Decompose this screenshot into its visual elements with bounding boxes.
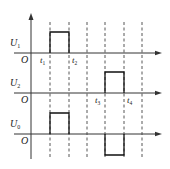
- pulse-u0: [50, 113, 69, 134]
- origin-label: O: [21, 54, 28, 65]
- pulse-u1: [50, 32, 69, 53]
- time-guides: [50, 22, 142, 157]
- pulse-u2: [105, 72, 124, 93]
- y-axis-arrow-icon: [29, 13, 34, 20]
- origin-label: O: [21, 94, 28, 105]
- time-axis-arrow-icon: [155, 51, 162, 55]
- time-axis-arrow-icon: [155, 91, 162, 95]
- axes-group: [14, 13, 162, 159]
- signal-label-u2: U2: [10, 77, 20, 89]
- signal-label-u0: U0: [10, 118, 20, 130]
- signal-label-u1: U1: [10, 37, 20, 49]
- time-marker-t4: t4: [127, 95, 133, 106]
- origin-label: O: [21, 135, 28, 146]
- time-marker-t3: t3: [95, 95, 101, 106]
- time-axis-arrow-icon: [155, 132, 162, 136]
- pulse-u0: [105, 134, 124, 155]
- time-marker-t2: t2: [72, 55, 78, 66]
- timing-diagram: U1OU2OU0Ot1t2t3t4: [0, 0, 170, 169]
- time-marker-t1: t1: [40, 55, 46, 66]
